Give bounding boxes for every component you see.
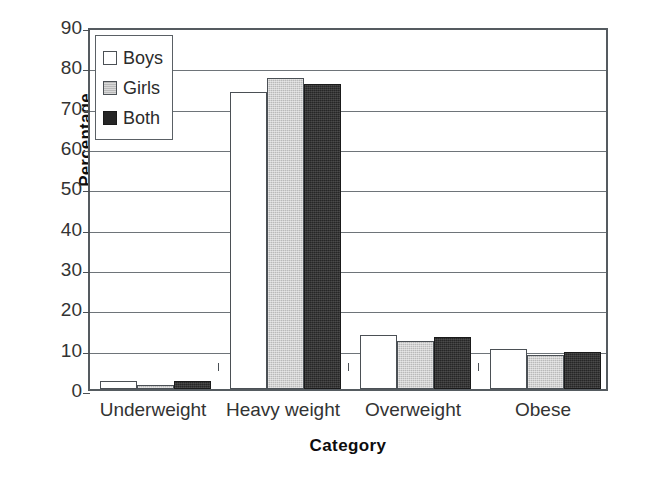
gridline [90,353,606,354]
legend-swatch-girls-icon [103,81,117,95]
legend-label: Both [123,109,160,127]
y-axis-tick-labels: 9080706050403020100 [36,0,82,491]
gridline [90,191,606,192]
bar-girls-heavy-weight [267,78,304,389]
x-axis-tick-label: Underweight [88,400,218,419]
gridline [90,232,606,233]
y-axis-tick-mark [83,393,90,394]
y-axis-tick-label: 10 [38,341,82,360]
y-axis-tick-label: 70 [38,99,82,118]
legend-label: Boys [123,49,163,67]
bar-girls-obese [527,355,564,389]
gridline [90,272,606,273]
bar-both-overweight [434,337,471,389]
gridline [90,151,606,152]
y-axis-tick-label: 40 [38,220,82,239]
y-axis-tick-mark [83,353,90,354]
bar-boys-underweight [100,381,137,389]
x-axis-tick-label: Obese [478,400,608,419]
y-axis-tick-mark [83,70,90,71]
bar-both-underweight [174,381,211,389]
y-axis-tick-mark [83,30,90,31]
y-axis-tick-mark [83,232,90,233]
legend-label: Girls [123,79,160,97]
x-axis-title: Category [88,436,608,456]
y-axis-tick-label: 60 [38,139,82,158]
bar-boys-overweight [360,335,397,389]
y-axis-tick-mark [83,111,90,112]
legend: BoysGirlsBoth [95,35,173,140]
y-axis-tick-mark [83,272,90,273]
x-axis-tick-label: Heavy weight [218,400,348,419]
y-axis-tick-label: 20 [38,300,82,319]
bar-both-obese [564,352,601,389]
x-axis-tick-mark [218,363,219,371]
y-axis-tick-label: 80 [38,58,82,77]
y-axis-tick-label: 50 [38,179,82,198]
y-axis-tick-label: 90 [38,18,82,37]
y-axis-tick-label: 30 [38,260,82,279]
bar-chart: Percentage 9080706050403020100 Underweig… [0,0,645,491]
bar-girls-overweight [397,341,434,389]
y-axis-tick-label: 0 [38,381,82,400]
bar-boys-heavy-weight [230,92,267,389]
y-axis-tick-mark [83,151,90,152]
legend-item-girls: Girls [103,73,172,103]
legend-item-boys: Boys [103,43,172,73]
legend-swatch-boys-icon [103,51,117,65]
legend-swatch-both-icon [103,111,117,125]
y-axis-tick-mark [83,312,90,313]
x-axis-tick-mark [348,363,349,371]
bar-both-heavy-weight [304,84,341,389]
legend-item-both: Both [103,103,172,133]
bar-girls-underweight [137,385,174,389]
x-axis-tick-mark [478,363,479,371]
y-axis-tick-mark [83,191,90,192]
x-axis-tick-label: Overweight [348,400,478,419]
bar-boys-obese [490,349,527,389]
gridline [90,312,606,313]
